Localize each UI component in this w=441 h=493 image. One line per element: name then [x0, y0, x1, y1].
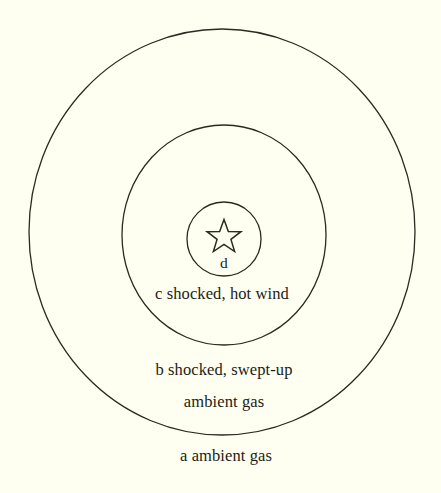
- concentric-circles-diagram: [0, 0, 441, 493]
- zone-b-label-line-1: b shocked, swept-up: [155, 360, 292, 379]
- zone-a-label: a ambient gas: [180, 446, 272, 465]
- zone-c-label: c shocked, hot wind: [155, 284, 289, 303]
- middle-circle-shocked-swept-up-gas: [122, 125, 326, 345]
- figure-root: d c shocked, hot wind b shocked, swept-u…: [0, 0, 441, 493]
- star-outline-icon: [207, 220, 241, 252]
- zone-d-label: d: [220, 254, 228, 271]
- zone-b-label-line-2: ambient gas: [184, 392, 264, 411]
